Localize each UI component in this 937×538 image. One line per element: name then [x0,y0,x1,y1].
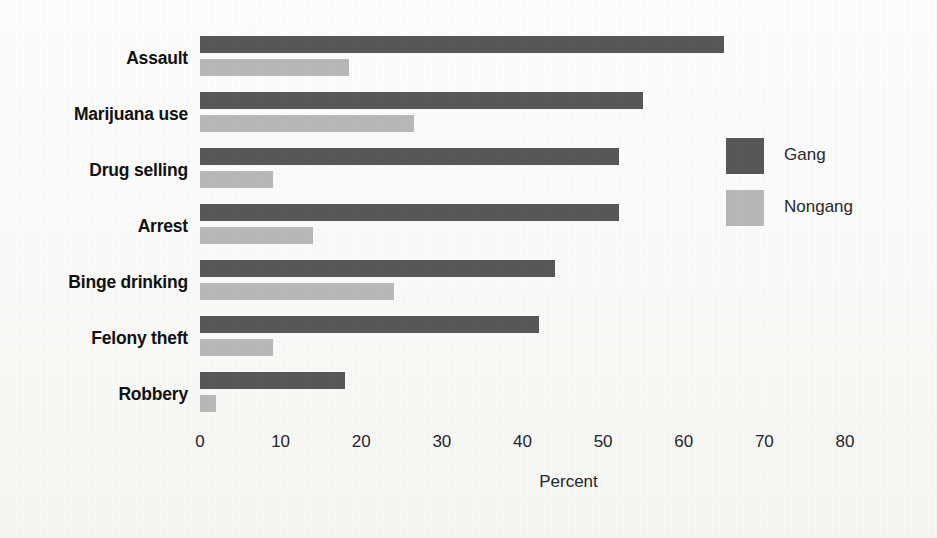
x-tick-label-70: 70 [755,432,774,452]
x-tick-label-40: 40 [513,432,532,452]
x-axis-title-text: Percent [539,472,598,492]
bar-gang-arrest [200,204,619,221]
x-tick-label-0: 0 [195,432,204,452]
category-label-drug-selling: Drug selling [0,160,188,181]
x-axis-title: Percent [0,472,937,492]
legend-item-nongang: Nongang [726,190,916,242]
x-tick-label-80: 80 [836,432,855,452]
x-tick-label-10: 10 [271,432,290,452]
bar-gang-marijuana-use [200,92,643,109]
x-axis-ticks: 01020304050607080 [200,432,845,462]
x-tick-label-30: 30 [432,432,451,452]
category-axis-labels: AssaultMarijuana useDrug sellingArrestBi… [0,28,188,426]
category-label-marijuana-use: Marijuana use [0,104,188,125]
category-label-felony-theft: Felony theft [0,328,188,349]
legend-label-gang: Gang [784,145,826,165]
bar-gang-felony-theft [200,316,539,333]
bar-nongang-felony-theft [200,339,273,356]
legend-swatch-gang [726,138,764,174]
legend-label-nongang: Nongang [784,197,853,217]
category-label-robbery: Robbery [0,384,188,405]
bar-gang-robbery [200,372,345,389]
bar-nongang-assault [200,59,349,76]
bar-gang-binge-drinking [200,260,555,277]
category-label-assault: Assault [0,48,188,69]
bar-nongang-drug-selling [200,171,273,188]
category-label-binge-drinking: Binge drinking [0,272,188,293]
category-label-arrest: Arrest [0,216,188,237]
bar-gang-drug-selling [200,148,619,165]
x-tick-label-60: 60 [674,432,693,452]
bar-nongang-arrest [200,227,313,244]
bar-chart: AssaultMarijuana useDrug sellingArrestBi… [0,0,937,538]
bar-nongang-marijuana-use [200,115,414,132]
bar-nongang-robbery [200,395,216,412]
bar-nongang-binge-drinking [200,283,394,300]
legend-swatch-nongang [726,190,764,226]
chart-legend: GangNongang [726,138,916,242]
bar-gang-assault [200,36,724,53]
x-tick-label-50: 50 [594,432,613,452]
legend-item-gang: Gang [726,138,916,190]
x-tick-label-20: 20 [352,432,371,452]
